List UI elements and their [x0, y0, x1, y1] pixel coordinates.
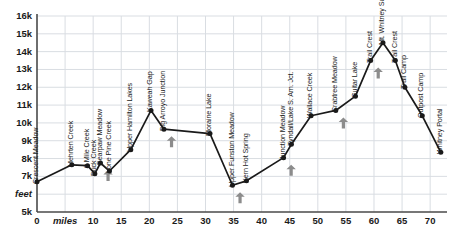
data-point-label: Outpost Camp	[416, 73, 425, 118]
x-tick-label: 70	[410, 215, 450, 226]
y-tick-label: 9k	[2, 135, 32, 146]
data-point-label: Big Arroyo Junction	[158, 71, 167, 131]
data-point-label: Guitar Lake	[350, 62, 359, 98]
y-axis-unit-label: feet	[2, 188, 32, 199]
data-point-label: Whitney Portal	[435, 109, 444, 154]
y-tick-label: 16k	[2, 10, 32, 21]
data-point-label: Moraine Lake	[204, 93, 213, 135]
elevation-profile-chart: Crescent MeadowMehrten Creek9 Mile Creek…	[0, 0, 457, 243]
y-tick-label: 7k	[2, 170, 32, 181]
data-point-label: Lone Pine Creek	[104, 121, 113, 173]
callout-arrow-icon	[167, 136, 176, 147]
data-point-label: Mehrten Creek	[66, 121, 75, 167]
data-point-label: Trail Camp	[399, 55, 408, 89]
data-point-label: Trail Crest	[365, 31, 374, 63]
y-tick-label: 15k	[2, 28, 32, 39]
y-tick-label: 13k	[2, 63, 32, 74]
y-tick-label: 10k	[2, 117, 32, 128]
y-tick-label: 12k	[2, 81, 32, 92]
data-point-label: Bearpaw Meadow	[95, 109, 104, 165]
data-point-label: Kaweah Gap	[145, 72, 154, 113]
y-tick-label: 11k	[2, 99, 32, 110]
data-point-label: Wallace Creek	[305, 73, 314, 118]
y-tick-label: 8k	[2, 153, 32, 164]
y-tick-label: 14k	[2, 46, 32, 57]
data-point-label: Crescent Meadow	[31, 127, 40, 183]
data-point-label: Tyndall/Lake S. Am. Jct.	[286, 72, 295, 146]
data-point-label: Trail Crest	[390, 31, 399, 63]
data-point-label: Crabtree Meadow	[330, 57, 339, 113]
data-point-label: Mt. Whitney Summit	[377, 0, 386, 45]
data-point-label: Upper Funston Meadow	[227, 113, 236, 188]
data-point-label: Upper Hamilton Lakes	[125, 83, 134, 152]
data-point-label: Kern Hot Spring	[241, 133, 250, 183]
callout-arrow-icon	[286, 165, 295, 176]
